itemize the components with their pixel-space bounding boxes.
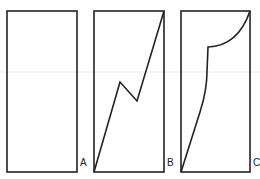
panel-c-curve-line <box>181 11 250 172</box>
panel-b-zigzag-line <box>94 11 164 172</box>
panel-a: A <box>7 11 87 172</box>
panel-a-frame <box>7 11 77 172</box>
panel-b-label: B <box>167 157 174 168</box>
panel-c-label: C <box>253 157 260 168</box>
panel-c-frame <box>181 11 250 172</box>
panel-b: B <box>94 11 174 172</box>
diagram-canvas: A B C <box>0 0 260 179</box>
panel-a-label: A <box>80 157 87 168</box>
panel-c: C <box>181 11 260 172</box>
